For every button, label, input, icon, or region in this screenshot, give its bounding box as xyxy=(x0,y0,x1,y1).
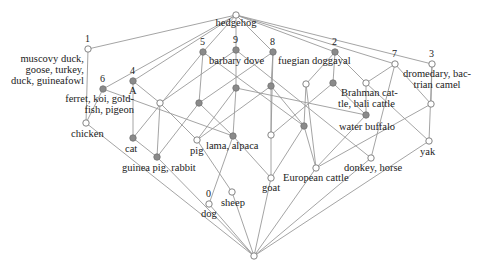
lattice-node-g2 xyxy=(233,85,239,91)
label-european-cattle: European cattle xyxy=(283,172,349,183)
lattice-node-n3 xyxy=(429,61,435,67)
lattice-edge xyxy=(197,86,271,140)
lattice-edges xyxy=(86,15,432,256)
lattice-node-lama xyxy=(230,133,236,139)
lattice-node-w1 xyxy=(157,100,163,106)
lattice-node-n8 xyxy=(270,49,276,55)
lattice-node-g4 xyxy=(301,123,307,129)
lattice-node-w2 xyxy=(303,81,309,87)
label-yak: yak xyxy=(420,146,435,157)
label-a: A xyxy=(129,85,137,96)
lattice-node-w4 xyxy=(268,132,274,138)
num-3: 3 xyxy=(429,48,434,59)
num-2: 2 xyxy=(332,36,337,47)
lattice-edge xyxy=(254,141,429,256)
label-brahman-line2: tle, bali cattle xyxy=(338,98,398,109)
lattice-edge xyxy=(160,103,197,140)
lattice-node-cat xyxy=(130,135,136,141)
lattice-edge xyxy=(197,88,236,140)
num-5: 5 xyxy=(200,36,205,47)
lattice-edge xyxy=(157,103,160,157)
num-9: 9 xyxy=(233,34,238,45)
label-poultry-line2: goose, turkey, xyxy=(0,64,84,75)
lattice-node-chicken xyxy=(83,120,89,126)
label-chicken: chicken xyxy=(71,128,104,139)
label-ferret-line1: ferret, koi, gold- xyxy=(40,93,134,104)
lattice-node-g1 xyxy=(196,100,202,106)
label-fuegian: fuegian doggayal xyxy=(278,55,351,66)
label-camel-line2: trian camel xyxy=(398,79,476,90)
lattice-node-n9 xyxy=(233,47,239,53)
label-cat: cat xyxy=(125,143,137,154)
lattice-node-bottom xyxy=(251,253,257,259)
label-lama: lama, alpaca xyxy=(206,140,258,151)
label-ferret-line2: fish, pigeon xyxy=(40,104,134,115)
lattice-edge xyxy=(199,52,203,103)
lattice-node-european xyxy=(313,165,319,171)
lattice-edge xyxy=(304,126,316,168)
lattice-node-donkey xyxy=(368,155,374,161)
label-poultry: muscovy duck, goose, turkey, duck, guine… xyxy=(0,53,84,86)
num-7: 7 xyxy=(392,48,397,59)
lattice-edge xyxy=(271,126,304,178)
label-sheep: sheep xyxy=(221,197,245,208)
lattice-node-pig xyxy=(194,137,200,143)
lattice-node-n4 xyxy=(130,78,136,84)
lattice-node-dog xyxy=(206,201,212,207)
lattice-node-guinea xyxy=(154,154,160,160)
lattice-node-goat xyxy=(268,175,274,181)
lattice-edge xyxy=(133,81,160,103)
lattice-node-g3 xyxy=(268,83,274,89)
num-0: 0 xyxy=(206,188,211,199)
num-4: 4 xyxy=(130,65,135,76)
lattice-node-buffalo xyxy=(363,112,369,118)
label-water-buffalo: water buffalo xyxy=(339,121,395,132)
label-barbary-dove: barbary dove xyxy=(209,55,264,66)
lattice-nodes xyxy=(83,12,435,259)
num-6: 6 xyxy=(100,73,105,84)
lattice-node-n1 xyxy=(85,46,91,52)
lattice-node-sheep xyxy=(229,189,235,195)
label-guinea-pig: guinea pig, rabbit xyxy=(122,162,196,173)
label-brahman-line1: Brahman cat- xyxy=(338,87,398,98)
label-goat: goat xyxy=(262,182,280,193)
label-poultry-line1: muscovy duck, xyxy=(0,53,84,64)
num-1: 1 xyxy=(85,33,90,44)
num-8: 8 xyxy=(270,36,275,47)
label-ferret: ferret, koi, gold- fish, pigeon xyxy=(40,93,134,115)
lattice-node-brahman xyxy=(330,80,336,86)
lattice-node-n5 xyxy=(200,49,206,55)
lattice-edge xyxy=(133,52,203,138)
lattice-node-w3 xyxy=(363,80,369,86)
label-camel: dromedary, bac- trian camel xyxy=(398,68,476,90)
lattice-edge xyxy=(371,64,395,158)
label-brahman: Brahman cat- tle, bali cattle xyxy=(338,87,398,109)
label-pig: pig xyxy=(190,145,203,156)
lattice-node-w5 xyxy=(428,101,434,107)
lattice-node-n6 xyxy=(100,86,106,92)
label-camel-line1: dromedary, bac- xyxy=(398,68,476,79)
lattice-node-n7 xyxy=(392,61,398,67)
label-hedgehog: hedgehog xyxy=(206,17,266,28)
lattice-node-yak xyxy=(426,138,432,144)
label-poultry-line3: duck, guineafowl xyxy=(0,75,84,86)
label-donkey: donkey, horse xyxy=(344,162,402,173)
label-dog: dog xyxy=(201,208,217,219)
